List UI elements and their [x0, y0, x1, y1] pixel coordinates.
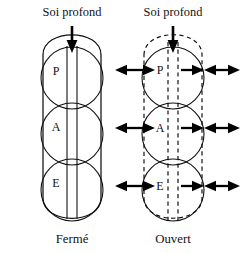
- open-top-label: Soi profond: [144, 5, 204, 19]
- closed-top-label: Soi profond: [43, 5, 103, 19]
- open-caption: Ouvert: [155, 232, 191, 246]
- open-arrow-A-right-inner: [181, 123, 204, 133]
- closed-node-label-A: A: [52, 120, 61, 134]
- open-arrow-P-right-outer-bidirectional: [204, 65, 240, 75]
- open-arrow-A-left-bidirectional: [115, 123, 155, 133]
- figure-root: Soi profond P A E Fermé: [0, 0, 245, 253]
- open-node-circle-A: [142, 103, 204, 165]
- open-arrow-P-right-inner: [181, 65, 204, 75]
- open-inflow-down-arrow: [168, 26, 179, 53]
- open-node-label-P: P: [157, 63, 164, 77]
- open-node-label-A: A: [156, 121, 165, 135]
- two-panel-diagram: Soi profond P A E Fermé: [0, 0, 245, 253]
- open-node-label-E: E: [156, 179, 163, 193]
- closed-inflow-down-arrow: [67, 26, 78, 53]
- open-node-circle-P: [142, 47, 204, 109]
- closed-node-label-P: P: [53, 64, 60, 78]
- open-arrow-E-right-outer-bidirectional: [204, 181, 240, 191]
- panel-closed: Soi profond P A E Fermé: [41, 5, 103, 246]
- open-arrow-P-left-bidirectional: [115, 65, 155, 75]
- closed-node-label-E: E: [52, 176, 59, 190]
- closed-node-circle-P: [41, 47, 103, 109]
- closed-caption: Fermé: [56, 232, 89, 246]
- open-arrow-A-right-outer-bidirectional: [204, 123, 240, 133]
- open-arrow-E-left-bidirectional: [115, 181, 155, 191]
- closed-node-circle-A: [41, 103, 103, 165]
- open-arrow-E-right-inner: [181, 181, 204, 191]
- panel-open: Soi profond: [115, 5, 240, 246]
- closed-node-circle-E: [41, 159, 103, 221]
